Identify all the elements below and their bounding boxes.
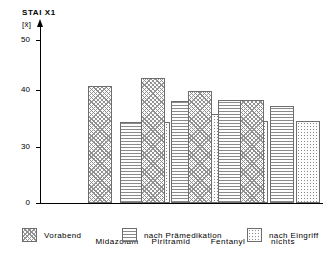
- y-tick-label-50: 50: [21, 36, 30, 44]
- y-axis-line: [40, 26, 41, 203]
- legend-label-nach-eingriff: nach Eingriff: [269, 231, 319, 240]
- y-tick-label-40: 40: [21, 86, 30, 94]
- legend-swatch-vorabend: [22, 228, 37, 242]
- y-axis-arrow-icon: [37, 19, 43, 27]
- legend-item-nach-eingriff: nach Eingriff: [247, 228, 319, 242]
- legend-label-nach-praemedikation: nach Prämedikation: [144, 231, 222, 240]
- y-tick-0: 0: [36, 203, 41, 204]
- chart-title: STAI X1: [22, 8, 56, 17]
- bar-fentanyl-vorabend: [188, 91, 212, 203]
- legend-swatch-nach-praemedikation: [122, 228, 137, 242]
- legend-label-vorabend: Vorabend: [44, 231, 81, 240]
- y-axis-label-text: [x̄]: [22, 20, 31, 29]
- y-tick-40: 40: [36, 90, 41, 91]
- chart-legend: Vorabend nach Prämedikation nach Eingrif…: [22, 228, 322, 248]
- legend-item-vorabend: Vorabend: [22, 228, 81, 242]
- stai-x1-bar-chart: STAI X1 [x̄] 50 40 30 0: [0, 0, 335, 258]
- legend-item-nach-praemedikation: nach Prämedikation: [122, 228, 222, 242]
- bar-fentanyl-nach-praemedikation: [218, 100, 242, 203]
- bar-nichts-nach-praemedikation: [270, 106, 294, 203]
- x-axis-line: [40, 203, 323, 204]
- bar-nichts-nach-eingriff: [296, 121, 320, 203]
- plot-area: 50 40 30 0 Midazolam Piritramid Fentanyl: [40, 26, 323, 203]
- y-tick-30: 30: [36, 147, 41, 148]
- y-axis-label: [x̄]: [22, 20, 31, 29]
- bar-nichts-vorabend: [240, 100, 264, 203]
- y-tick-label-0: 0: [26, 199, 30, 207]
- y-tick-50: 50: [36, 40, 41, 41]
- legend-swatch-nach-eingriff: [247, 228, 262, 242]
- bar-piritramid-vorabend: [141, 78, 165, 203]
- bar-midazolam-vorabend: [88, 86, 112, 203]
- y-tick-label-30: 30: [21, 143, 30, 151]
